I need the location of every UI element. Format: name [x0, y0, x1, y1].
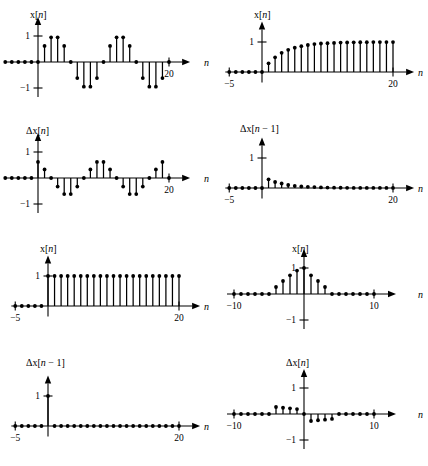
x-axis-label: n	[418, 289, 423, 300]
stem-marker	[246, 412, 250, 416]
stem-marker	[260, 292, 264, 296]
stem-marker	[330, 292, 334, 296]
stem-marker	[323, 418, 327, 422]
y-axis-label: Δx[n − 1]	[240, 123, 279, 134]
stem-marker	[309, 273, 313, 277]
stem-marker	[53, 274, 57, 278]
stem-marker	[288, 273, 292, 277]
y-axis-arrowhead	[259, 138, 265, 146]
stem-marker	[43, 44, 47, 48]
stem-marker	[102, 60, 106, 64]
x-tick-label: −5	[224, 195, 234, 205]
stem-marker	[339, 41, 343, 45]
stem-marker	[171, 424, 175, 428]
stem-marker	[385, 40, 389, 44]
stem-marker	[378, 40, 382, 44]
stem-marker	[23, 176, 27, 180]
x-tick-label: −5	[224, 79, 234, 89]
stem-marker	[371, 40, 375, 44]
stem-marker	[16, 60, 20, 64]
stem-marker	[316, 279, 320, 283]
stem-marker	[313, 42, 317, 46]
stem-plot: 1−520x[n]n	[214, 0, 428, 116]
stem-marker	[118, 424, 122, 428]
stem-marker	[85, 274, 89, 278]
stem-marker	[254, 186, 258, 190]
stem-marker	[177, 274, 181, 278]
stem-marker	[99, 424, 103, 428]
stem-marker	[69, 192, 73, 196]
stem-marker	[299, 185, 303, 189]
stem-marker	[246, 292, 250, 296]
chart-panel: −1120Δx[n]n	[0, 116, 214, 232]
y-axis-label: Δx[n]	[26, 125, 49, 136]
chart-panel: 1−520x[n]n	[214, 0, 428, 116]
stem-marker	[293, 184, 297, 188]
x-tick-label: 20	[174, 313, 184, 323]
stem-marker	[177, 424, 181, 428]
x-axis-arrowhead	[388, 291, 396, 297]
y-tick-label: 1	[291, 383, 296, 393]
stem-marker	[36, 160, 40, 164]
stem-plot-figure: −1120x[n]n1−520x[n]n−1120Δx[n]n1−520Δx[n…	[0, 0, 428, 466]
stem-marker	[75, 185, 79, 189]
stem-marker	[240, 70, 244, 74]
stem-marker	[112, 424, 116, 428]
stem-marker	[332, 186, 336, 190]
stem-plot: −11−1010x[n]n	[214, 234, 428, 350]
stem-marker	[16, 176, 20, 180]
stem-marker	[99, 274, 103, 278]
stem-plot: 1−520Δx[n − 1]n	[214, 116, 428, 232]
stem-marker	[295, 269, 299, 273]
stem-marker	[344, 412, 348, 416]
stem-marker	[131, 424, 135, 428]
stem-marker	[56, 35, 60, 39]
stem-marker	[234, 70, 238, 74]
stem-marker	[79, 424, 83, 428]
stem-marker	[302, 266, 306, 270]
stem-marker	[26, 424, 30, 428]
stem-marker	[339, 186, 343, 190]
stem-marker	[66, 274, 70, 278]
y-axis-label: Δx[n]	[286, 357, 309, 368]
stem-marker	[53, 424, 57, 428]
stem-marker	[105, 424, 109, 428]
x-axis-label: n	[418, 183, 423, 194]
y-tick-label: 1	[249, 153, 254, 163]
stem-marker	[147, 176, 151, 180]
stem-marker	[164, 424, 168, 428]
stem-marker	[125, 274, 129, 278]
stem-marker	[138, 274, 142, 278]
stem-marker	[332, 41, 336, 45]
stem-marker	[372, 412, 376, 416]
x-axis-arrowhead	[192, 423, 200, 429]
stem-marker	[36, 60, 40, 64]
x-tick-label: 20	[388, 195, 398, 205]
x-axis-arrowhead	[388, 411, 396, 417]
stem-marker	[62, 44, 66, 48]
stem-marker	[365, 40, 369, 44]
x-tick-label: 10	[369, 421, 379, 431]
stem-marker	[13, 424, 17, 428]
chart-panel: 1−520Δx[n − 1]n	[0, 350, 214, 466]
stem-marker	[267, 412, 271, 416]
stem-marker	[72, 424, 76, 428]
stem-marker	[134, 60, 138, 64]
stem-marker	[253, 292, 257, 296]
stem-marker	[49, 176, 53, 180]
x-axis-arrowhead	[182, 59, 190, 65]
y-tick-label: 1	[25, 31, 30, 41]
stem-marker	[3, 60, 7, 64]
stem-marker	[92, 424, 96, 428]
chart-panel: −1120x[n]n	[0, 0, 214, 116]
stem-marker	[330, 417, 334, 421]
x-tick-label: −10	[227, 301, 242, 311]
stem-marker	[167, 176, 171, 180]
stem-marker	[345, 41, 349, 45]
stem-marker	[157, 274, 161, 278]
stem-marker	[141, 185, 145, 189]
y-tick-label: −1	[286, 315, 296, 325]
stem-marker	[391, 40, 395, 44]
x-tick-label: 20	[388, 79, 398, 89]
stem-marker	[141, 76, 145, 80]
